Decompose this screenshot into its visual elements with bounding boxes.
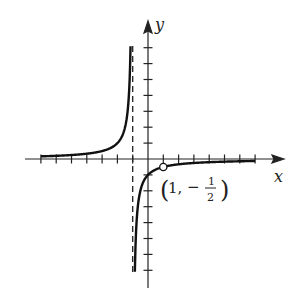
y-axis-label: y [154, 15, 165, 34]
x-axis-label: x [274, 167, 283, 186]
point-label: ( 1, − 1 2 ) [160, 175, 229, 204]
point-label-denominator: 2 [207, 191, 214, 204]
point-label-numerator: 1 [208, 175, 215, 188]
open-point-marker [160, 163, 167, 170]
y-axis-arrow-icon [144, 21, 152, 33]
point-label-x: 1, [168, 179, 182, 197]
point-label-minus: − [187, 178, 200, 196]
function-graph: y x ( 1, − 1 2 ) [0, 0, 293, 305]
point-label-close-paren: ) [220, 176, 229, 204]
curve-left-branch [41, 46, 131, 156]
x-axis-arrow-icon [272, 155, 284, 163]
